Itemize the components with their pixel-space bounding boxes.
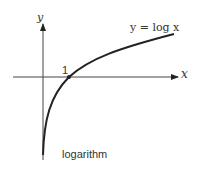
x-axis-label: x: [181, 67, 188, 81]
log-curve: [43, 34, 174, 155]
intercept-label: 1: [62, 64, 68, 76]
diagram-title: logarithm: [62, 148, 107, 160]
curve-label: y = log x: [129, 21, 180, 34]
log-graph: y x 1 y = log x logarithm: [0, 0, 202, 173]
y-axis-label: y: [36, 11, 44, 24]
